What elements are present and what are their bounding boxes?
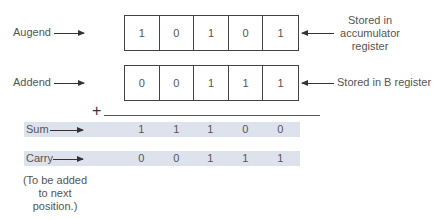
carry-bit-4: 1	[263, 152, 298, 164]
carry-note-line-3: position.)	[20, 200, 90, 213]
accumulator-register: 1 0 1 0 1	[124, 15, 299, 51]
addend-bit-1: 0	[160, 66, 195, 100]
augend-label: Augend	[13, 26, 51, 38]
addend-bit-2: 1	[194, 66, 229, 100]
carry-note-line-2: to next	[20, 187, 90, 200]
sum-bit-0: 1	[124, 123, 159, 135]
sum-rule-line	[104, 115, 320, 116]
carry-bit-1: 0	[159, 152, 194, 164]
augend-bit-2: 1	[194, 16, 229, 50]
augend-bit-1: 0	[160, 16, 195, 50]
b-register-arrow-icon	[302, 83, 334, 84]
carry-note: (To be added to next position.)	[20, 174, 90, 213]
b-register-annotation: Stored in B register	[337, 76, 431, 88]
accumulator-annotation-line-1: Stored in	[335, 14, 405, 27]
sum-bit-2: 1	[193, 123, 228, 135]
addend-bit-3: 1	[229, 66, 264, 100]
carry-note-line-1: (To be added	[20, 174, 90, 187]
sum-bit-3: 0	[228, 123, 263, 135]
addend-bit-0: 0	[125, 66, 160, 100]
carry-bit-3: 1	[228, 152, 263, 164]
accumulator-annotation: Stored in accumulator register	[335, 14, 405, 53]
addend-bit-4: 1	[263, 66, 298, 100]
augend-arrow-icon	[54, 33, 84, 34]
accumulator-annotation-line-2: accumulator	[335, 27, 405, 40]
sum-label: Sum	[26, 123, 49, 135]
augend-bit-3: 0	[229, 16, 264, 50]
plus-operator: +	[92, 102, 101, 120]
carry-label: Carry	[26, 152, 53, 164]
augend-bit-0: 1	[125, 16, 160, 50]
addend-label: Addend	[13, 76, 51, 88]
accumulator-arrow-icon	[302, 33, 334, 34]
sum-arrow-icon	[50, 130, 83, 131]
sum-bit-1: 1	[159, 123, 194, 135]
b-register: 0 0 1 1 1	[124, 65, 299, 101]
sum-bit-4: 0	[263, 123, 298, 135]
carry-bit-2: 1	[193, 152, 228, 164]
carry-arrow-icon	[53, 159, 83, 160]
accumulator-annotation-line-3: register	[335, 40, 405, 53]
addend-arrow-icon	[54, 83, 84, 84]
carry-bit-0: 0	[124, 152, 159, 164]
augend-bit-4: 1	[263, 16, 298, 50]
